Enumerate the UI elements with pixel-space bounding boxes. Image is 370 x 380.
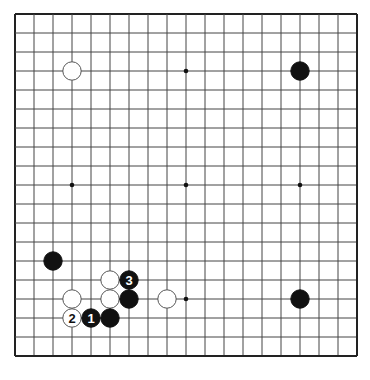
black-stone bbox=[291, 290, 309, 308]
black-stone: 3 bbox=[120, 271, 138, 289]
move-number-label: 2 bbox=[68, 311, 75, 326]
black-stone: 1 bbox=[82, 309, 100, 327]
black-stone bbox=[291, 62, 309, 80]
white-stone: 2 bbox=[63, 309, 81, 327]
white-stone bbox=[63, 290, 81, 308]
move-number-label: 1 bbox=[87, 311, 94, 326]
star-point bbox=[298, 183, 303, 188]
black-stone bbox=[44, 252, 62, 270]
white-stone bbox=[101, 290, 119, 308]
white-stone bbox=[158, 290, 176, 308]
go-board[interactable]: 321 bbox=[0, 0, 370, 380]
star-point bbox=[70, 183, 75, 188]
star-point bbox=[184, 183, 189, 188]
stones-layer: 321 bbox=[44, 62, 309, 327]
white-stone bbox=[101, 271, 119, 289]
black-stone bbox=[101, 309, 119, 327]
star-point bbox=[184, 69, 189, 74]
star-point bbox=[184, 297, 189, 302]
white-stone bbox=[63, 62, 81, 80]
move-number-label: 3 bbox=[125, 273, 132, 288]
black-stone bbox=[120, 290, 138, 308]
